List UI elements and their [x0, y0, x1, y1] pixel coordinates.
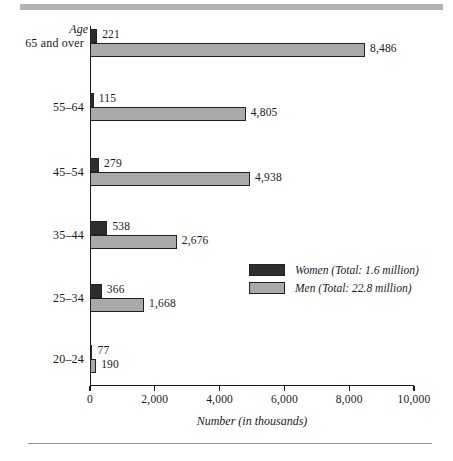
x-axis-title: Number (in thousands): [90, 414, 414, 429]
legend-label-women: Women (Total: 1.6 million): [295, 264, 419, 276]
bar-value-label-women: 538: [112, 220, 130, 232]
x-axis-tick: [284, 386, 285, 391]
bar-value-label-men: 190: [101, 358, 119, 370]
x-axis-line: [90, 385, 414, 386]
bar-men: [90, 235, 177, 249]
y-axis-category-label: 25–34: [0, 291, 84, 306]
legend-label-men: Men (Total: 22.8 million): [295, 282, 412, 294]
x-axis-tick-label: 10,000: [384, 393, 444, 405]
bar-men: [90, 298, 144, 312]
bar-value-label-men: 2,676: [182, 234, 209, 246]
legend-swatch-women-icon: [249, 264, 285, 276]
chart-legend: Women (Total: 1.6 million) Men (Total: 2…: [249, 262, 419, 298]
bar-men: [90, 172, 250, 186]
x-axis-tick: [89, 386, 90, 391]
plot-area: Age 02,0004,0006,0008,00010,000 2218,486…: [0, 0, 453, 461]
bar-value-label-women: 115: [99, 92, 116, 104]
bar-value-label-women: 366: [107, 283, 125, 295]
y-axis-category-label: 45–54: [0, 165, 84, 180]
bar-value-label-men: 1,668: [149, 297, 176, 309]
x-axis-tick-label: 4,000: [190, 393, 250, 405]
x-axis-tick-label: 8,000: [319, 393, 379, 405]
x-axis-tick: [219, 386, 220, 391]
bar-men: [90, 43, 365, 57]
bar-women: [90, 284, 102, 298]
y-axis-category-label: 35–44: [0, 228, 84, 243]
x-axis-tick-label: 2,000: [125, 393, 185, 405]
bar-value-label-women: 221: [102, 28, 120, 40]
bar-men: [90, 359, 96, 373]
bar-women: [90, 93, 94, 107]
bar-value-label-women: 279: [104, 157, 122, 169]
bar-women: [90, 345, 92, 359]
bar-value-label-men: 8,486: [370, 42, 397, 54]
y-axis-category-label: 65 and over: [0, 36, 84, 51]
x-axis-tick: [413, 386, 414, 391]
y-axis-category-label: 55–64: [0, 100, 84, 115]
bar-women: [90, 29, 97, 43]
bar-women: [90, 158, 99, 172]
bar-women: [90, 221, 107, 235]
legend-swatch-men-icon: [249, 282, 285, 294]
bar-men: [90, 107, 246, 121]
bar-value-label-men: 4,805: [251, 106, 278, 118]
y-axis-title: Age: [28, 22, 88, 37]
x-axis-tick-label: 0: [60, 393, 120, 405]
x-axis-tick-label: 6,000: [254, 393, 314, 405]
chart-figure: Age 02,0004,0006,0008,00010,000 2218,486…: [0, 0, 453, 461]
legend-item-men: Men (Total: 22.8 million): [249, 280, 419, 295]
x-axis-tick: [349, 386, 350, 391]
legend-item-women: Women (Total: 1.6 million): [249, 262, 419, 277]
y-axis-line: [90, 26, 91, 386]
x-axis-tick: [154, 386, 155, 391]
y-axis-category-label: 20–24: [0, 352, 84, 367]
bar-value-label-men: 4,938: [255, 171, 282, 183]
bar-value-label-women: 77: [97, 344, 109, 356]
